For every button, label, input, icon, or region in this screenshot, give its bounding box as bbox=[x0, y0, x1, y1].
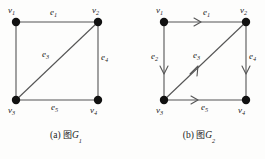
edge-label-e1: e1 bbox=[50, 8, 57, 17]
edge-label-e4: e4 bbox=[101, 53, 108, 62]
edge-label-e1: e1 bbox=[203, 8, 210, 17]
vertex-label-v2: v2 bbox=[240, 6, 247, 15]
vertex-label-v4: v4 bbox=[90, 106, 97, 115]
vertex-label-v2: v2 bbox=[92, 6, 99, 15]
vertex-v1-dot bbox=[12, 18, 20, 26]
caption-a-graph-sub: 1 bbox=[79, 137, 82, 144]
vertex-label-v1: v1 bbox=[8, 6, 15, 15]
edge-e3-line bbox=[16, 22, 98, 100]
edge-label-e2: e2 bbox=[151, 52, 158, 61]
graph-figure: v1 v2 v3 v4 e1 e3 e4 e5 (a) 图G1 bbox=[0, 0, 265, 159]
vertex-v2-dot bbox=[94, 18, 102, 26]
edge-label-e4: e4 bbox=[249, 52, 256, 61]
vertex-label-v4: v4 bbox=[238, 106, 245, 115]
caption-panel-a: (a) 图G1 bbox=[0, 128, 132, 142]
vertex-v4-dot bbox=[94, 96, 102, 104]
vertex-label-v3: v3 bbox=[156, 106, 163, 115]
caption-a-prefix: (a) bbox=[50, 130, 61, 140]
vertex-label-v1: v1 bbox=[156, 6, 163, 15]
caption-a-cn: 图 bbox=[63, 130, 72, 140]
vertex-label-v3: v3 bbox=[8, 106, 15, 115]
caption-b-graph-sub: 2 bbox=[212, 137, 215, 144]
edge-label-e3: e3 bbox=[42, 50, 49, 59]
edge-label-e3: e3 bbox=[193, 51, 200, 60]
caption-b-cn: 图 bbox=[196, 130, 205, 140]
vertex-v2-dot bbox=[242, 18, 250, 26]
caption-panel-b: (b) 图G2 bbox=[133, 128, 265, 142]
vertex-v1-dot bbox=[160, 18, 168, 26]
caption-a-graph: G bbox=[72, 130, 79, 140]
panel-graph-g1: v1 v2 v3 v4 e1 e3 e4 e5 (a) 图G1 bbox=[0, 0, 132, 159]
edge-e3-line bbox=[164, 22, 246, 100]
vertex-v3-dot bbox=[160, 96, 168, 104]
edge-label-e5: e5 bbox=[51, 103, 58, 112]
edge-label-e5: e5 bbox=[201, 103, 208, 112]
vertex-v4-dot bbox=[242, 96, 250, 104]
panel-graph-g2: v1 v2 v3 v4 e1 e2 e3 e4 e5 (b) 图G2 bbox=[133, 0, 265, 159]
caption-b-prefix: (b) bbox=[183, 130, 194, 140]
vertex-v3-dot bbox=[12, 96, 20, 104]
